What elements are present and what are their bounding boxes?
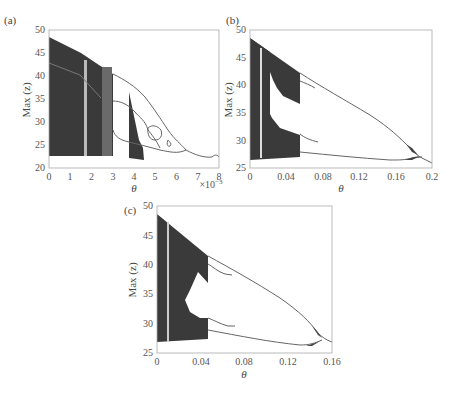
tick-label: 40 bbox=[143, 259, 153, 270]
panel-c: (c) 25 30 35 40 45 50 0 0.04 0.08 0.12 0… bbox=[124, 200, 341, 380]
tick-label: 0.12 bbox=[279, 356, 297, 367]
panel-a-window-2 bbox=[102, 67, 112, 156]
bifurcation-figure: (a) 20 25 30 35 40 45 50 0 1 2 bbox=[0, 0, 459, 393]
tick-label: 0.08 bbox=[235, 356, 253, 367]
panel-a-chaotic-band-2 bbox=[129, 92, 144, 160]
tick-label: 30 bbox=[35, 116, 45, 127]
tick-label: 4 bbox=[132, 171, 137, 182]
tick-label: 0.12 bbox=[350, 171, 368, 182]
tick-label: 0.2 bbox=[426, 171, 439, 182]
panel-c-y-ticks: 25 30 35 40 45 50 bbox=[143, 200, 153, 358]
panel-c-merge-chaos-upper bbox=[312, 326, 322, 338]
tick-label: 0.04 bbox=[192, 356, 210, 367]
panel-c-y-label: Max (z) bbox=[126, 262, 139, 297]
panel-b-inner-lower bbox=[300, 134, 318, 142]
panel-a-x-multiplier: ×10−3 bbox=[199, 178, 223, 190]
tick-label: 0.04 bbox=[277, 171, 295, 182]
tick-label: 0.16 bbox=[387, 171, 405, 182]
tick-label: 20 bbox=[35, 162, 45, 173]
panel-b-window-stripe bbox=[260, 48, 262, 158]
tick-label: 30 bbox=[143, 318, 153, 329]
tick-label: 6 bbox=[174, 171, 179, 182]
tick-label: 25 bbox=[143, 347, 153, 358]
tick-label: 45 bbox=[236, 52, 246, 63]
panel-c-window-stripe bbox=[167, 222, 169, 342]
panel-a-y-ticks: 20 25 30 35 40 45 50 bbox=[35, 24, 45, 173]
panel-b-merge-chaos-upper bbox=[406, 144, 418, 155]
tick-label: 25 bbox=[35, 139, 45, 150]
panel-c-chaotic-band bbox=[157, 214, 208, 342]
tick-label: 50 bbox=[143, 200, 153, 211]
tick-label: 1 bbox=[68, 171, 73, 182]
panel-a-lower-branch bbox=[113, 130, 186, 152]
tick-label: 0 bbox=[47, 171, 52, 182]
panel-c-x-ticks: 0 0.04 0.08 0.12 0.16 bbox=[155, 356, 341, 367]
tick-label: 45 bbox=[143, 230, 153, 241]
panel-b-x-label: θ bbox=[338, 182, 344, 194]
panel-a-upper-branch bbox=[113, 74, 219, 157]
tick-label: 0.08 bbox=[314, 171, 332, 182]
panel-c-upper-branch bbox=[208, 256, 332, 342]
panel-a-label: (a) bbox=[4, 14, 17, 27]
panel-a-loop-2 bbox=[167, 140, 171, 146]
panel-a-x-ticks: 0 1 2 3 4 5 6 7 8 bbox=[47, 171, 222, 182]
panel-a-window bbox=[84, 60, 87, 156]
panel-a-y-label: Max (z) bbox=[20, 82, 33, 117]
panel-c-inner-upper bbox=[208, 264, 232, 275]
tick-label: 35 bbox=[35, 93, 45, 104]
panel-a: (a) 20 25 30 35 40 45 50 0 1 2 bbox=[4, 14, 223, 194]
tick-label: 50 bbox=[236, 24, 246, 35]
tick-label: 25 bbox=[236, 162, 246, 173]
tick-label: 30 bbox=[236, 135, 246, 146]
panel-b: (b) 25 30 35 40 45 50 0 0.04 0.08 0.12 0… bbox=[222, 14, 438, 194]
panel-b-x-ticks: 0 0.04 0.08 0.12 0.16 0.2 bbox=[248, 171, 439, 182]
tick-label: 0.16 bbox=[323, 356, 341, 367]
panel-b-lower-branch bbox=[300, 152, 422, 160]
panel-a-x-label: θ bbox=[131, 182, 137, 194]
panel-b-y-ticks: 25 30 35 40 45 50 bbox=[236, 24, 246, 173]
tick-label: 40 bbox=[35, 70, 45, 81]
panel-c-x-label: θ bbox=[241, 368, 247, 380]
panel-c-lower-branch bbox=[208, 330, 322, 345]
panel-c-inner-lower bbox=[208, 318, 235, 326]
panel-b-inner-upper bbox=[300, 81, 315, 88]
panel-c-label: (c) bbox=[124, 204, 137, 217]
tick-label: 45 bbox=[35, 47, 45, 58]
tick-label: 3 bbox=[111, 171, 116, 182]
tick-label: 35 bbox=[143, 288, 153, 299]
panel-b-merge-chaos-lower bbox=[404, 156, 420, 160]
panel-b-y-label: Max (z) bbox=[222, 82, 235, 117]
tick-label: 2 bbox=[89, 171, 94, 182]
tick-label: 5 bbox=[153, 171, 158, 182]
tick-label: 40 bbox=[236, 79, 246, 90]
tick-label: 35 bbox=[236, 107, 246, 118]
tick-label: 0 bbox=[155, 356, 160, 367]
tick-label: 0 bbox=[248, 171, 253, 182]
tick-label: 50 bbox=[35, 24, 45, 35]
